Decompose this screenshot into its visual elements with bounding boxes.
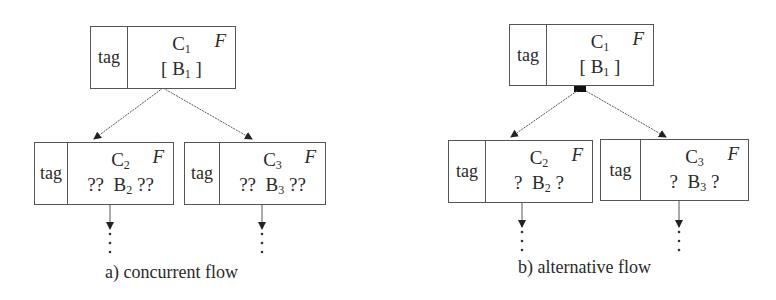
content-line: ? B3 ? bbox=[641, 171, 748, 195]
node-c3-alternative: tag C3 F ? B3 ? bbox=[600, 139, 749, 201]
node-c1-concurrent: tag C1 F [ B1 ] bbox=[90, 26, 236, 89]
node-body: C3 F ?? B3 ?? bbox=[220, 143, 325, 204]
node-c2-alternative: tag C2 F ? B2 ? bbox=[448, 140, 593, 203]
flag-label: F bbox=[152, 146, 164, 168]
node-body: C1 F [ B1 ] bbox=[128, 27, 235, 88]
caption-alternative: b) alternative flow bbox=[518, 257, 651, 278]
flag-label: F bbox=[304, 146, 316, 168]
tag-cell: tag bbox=[601, 140, 641, 200]
tag-cell: tag bbox=[35, 143, 68, 204]
node-c3-concurrent: tag C3 F ?? B3 ?? bbox=[184, 142, 326, 205]
node-body: C3 F ? B3 ? bbox=[641, 140, 748, 200]
edge-c1-c3-b bbox=[586, 91, 666, 137]
tag-cell: tag bbox=[449, 141, 486, 202]
flag-label: F bbox=[214, 30, 226, 52]
continuation-dots bbox=[109, 231, 681, 254]
tag-cell: tag bbox=[185, 143, 220, 204]
content-line: [ B1 ] bbox=[128, 58, 235, 82]
content-line: ?? B3 ?? bbox=[220, 174, 325, 198]
flag-label: F bbox=[727, 143, 739, 165]
edge-c1-c2-a bbox=[94, 88, 163, 139]
content-line: ?? B2 ?? bbox=[68, 174, 173, 198]
alternative-split-marker bbox=[574, 85, 586, 92]
tag-cell: tag bbox=[510, 25, 547, 85]
node-c2-concurrent: tag C2 F ?? B2 ?? bbox=[34, 142, 174, 205]
flag-label: F bbox=[632, 28, 644, 50]
content-line: [ B1 ] bbox=[547, 56, 653, 80]
flag-label: F bbox=[571, 144, 583, 166]
content-line: ? B2 ? bbox=[486, 172, 592, 196]
node-body: C2 F ?? B2 ?? bbox=[68, 143, 173, 204]
node-c1-alternative: tag C1 F [ B1 ] bbox=[509, 24, 654, 86]
edge-c1-c3-a bbox=[163, 88, 252, 139]
node-body: C2 F ? B2 ? bbox=[486, 141, 592, 202]
tag-cell: tag bbox=[91, 27, 128, 88]
node-body: C1 F [ B1 ] bbox=[547, 25, 653, 85]
edge-c1-c2-b bbox=[511, 91, 577, 137]
caption-concurrent: a) concurrent flow bbox=[105, 262, 238, 283]
